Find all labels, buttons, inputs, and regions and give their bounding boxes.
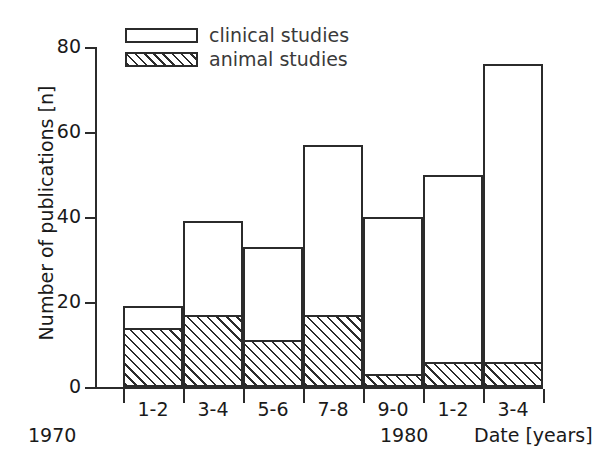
y-tick-label-40: 40 — [41, 207, 81, 226]
x-tick-label-5: 1-2 — [423, 398, 483, 420]
x-tick-label-4: 9-0 — [363, 398, 423, 420]
y-tick-40 — [85, 217, 95, 219]
decade-label-right: 1980 — [380, 424, 428, 446]
bar-segment-clinical-studies — [483, 64, 543, 387]
legend-label-clinical-studies: clinical studies — [209, 25, 349, 45]
legend-item-clinical-studies: clinical studies — [125, 24, 349, 46]
y-tick-label-0: 0 — [41, 377, 81, 396]
bar-chart-figure: Number of publications [n] 80 60 40 20 0… — [0, 0, 592, 459]
x-tick-label-3: 7-8 — [303, 398, 363, 420]
y-tick-label-80: 80 — [41, 37, 81, 56]
bar-group — [423, 175, 483, 388]
bar-group — [243, 247, 303, 387]
bar-group — [183, 221, 243, 387]
bar-group — [483, 64, 543, 387]
chart-legend: clinical studies animal studies — [125, 24, 349, 72]
plot-area — [95, 47, 543, 389]
y-tick-60 — [85, 132, 95, 134]
x-tick — [543, 389, 545, 403]
legend-item-animal-studies: animal studies — [125, 48, 349, 70]
decade-label-left: 1970 — [28, 424, 76, 446]
bar-segment-clinical-studies — [363, 217, 423, 387]
bar-segment-animal-studies — [423, 362, 483, 388]
y-tick-0 — [85, 387, 95, 389]
x-tick-label-1: 3-4 — [183, 398, 243, 420]
bar-group — [303, 145, 363, 387]
y-tick-80 — [85, 47, 95, 49]
bar-segment-animal-studies — [303, 315, 363, 387]
bar-segment-animal-studies — [243, 340, 303, 387]
bar-group — [123, 306, 183, 387]
x-tick-label-6: 3-4 — [483, 398, 543, 420]
legend-swatch-hatched-box — [125, 52, 198, 67]
x-axis-title: Date [years] — [474, 424, 592, 446]
bar-segment-animal-studies — [483, 362, 543, 388]
bar-group — [363, 217, 423, 387]
bar-segment-animal-studies — [363, 374, 423, 387]
bar-segment-animal-studies — [183, 315, 243, 387]
x-tick-label-2: 5-6 — [243, 398, 303, 420]
x-tick-label-0: 1-2 — [123, 398, 183, 420]
bar-segment-animal-studies — [123, 328, 183, 388]
x-axis-line — [95, 387, 543, 389]
y-tick-label-60: 60 — [41, 122, 81, 141]
legend-label-animal-studies: animal studies — [209, 49, 348, 69]
legend-swatch-open-box — [125, 28, 198, 43]
y-tick-20 — [85, 302, 95, 304]
bar-segment-clinical-studies — [423, 175, 483, 388]
y-tick-label-20: 20 — [41, 292, 81, 311]
